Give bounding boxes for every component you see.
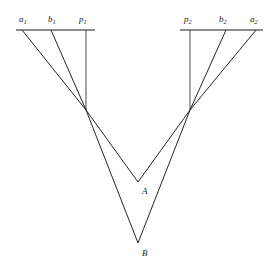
label-b1-sub: 1 xyxy=(53,18,56,25)
right-station-to-A xyxy=(138,110,190,182)
left-station-to-A xyxy=(86,110,138,182)
label-a1: a1 xyxy=(19,14,27,25)
label-p1-sub: 1 xyxy=(84,18,87,25)
label-a2-sub: 2 xyxy=(255,18,259,25)
label-point-B: B xyxy=(142,248,148,258)
a1-ray xyxy=(22,30,86,110)
b2-ray xyxy=(190,30,226,110)
label-b2: b2 xyxy=(219,14,228,25)
diagram-canvas: a1 b1 p1 p2 b2 a2 A B xyxy=(0,0,278,266)
a2-ray xyxy=(190,30,256,110)
ray-diagram: a1 b1 p1 p2 b2 a2 A B xyxy=(0,0,278,266)
label-a2: a2 xyxy=(250,14,259,25)
label-p2: p2 xyxy=(183,14,193,25)
right-station-to-B xyxy=(138,110,190,243)
label-point-A: A xyxy=(141,186,148,196)
b1-ray xyxy=(51,30,86,110)
label-b2-sub: 2 xyxy=(224,18,228,25)
label-p2-sub: 2 xyxy=(189,18,193,25)
left-station-to-B xyxy=(86,110,138,243)
label-b1: b1 xyxy=(48,14,56,25)
label-p1: p1 xyxy=(78,14,87,25)
label-a1-sub: 1 xyxy=(24,18,27,25)
